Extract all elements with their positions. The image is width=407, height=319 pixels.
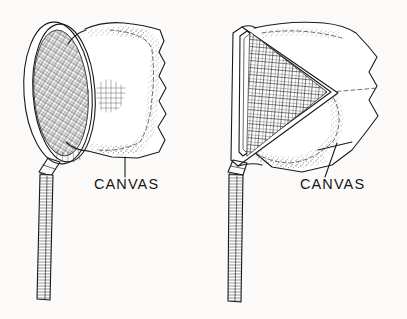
left-net-figure (19, 20, 166, 300)
left-handle-shaft (37, 174, 53, 300)
left-canvas-label: CANVAS (94, 177, 159, 192)
right-canvas-label: CANVAS (300, 177, 365, 192)
left-canvas-bag (85, 23, 166, 158)
left-handle-ferrule (39, 158, 60, 176)
figure-root: CANVAS CANVAS (0, 0, 407, 319)
net-diagram-drawing (0, 0, 407, 319)
right-handle-shaft (228, 174, 243, 302)
right-net-figure (228, 22, 378, 302)
